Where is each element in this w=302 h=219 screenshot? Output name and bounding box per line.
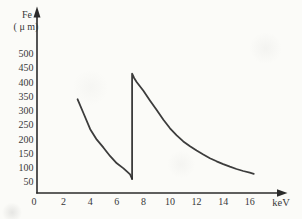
x-tick-label: 2	[61, 196, 66, 207]
y-axis-title-element: Fe	[22, 9, 33, 20]
y-tick-label: 350	[19, 91, 34, 102]
y-tick-label: 50	[24, 176, 34, 187]
data-curves	[78, 74, 254, 179]
y-tick-label: 500	[19, 48, 34, 59]
x-axis-title: keV	[272, 197, 290, 208]
x-tick-label: 16	[245, 196, 255, 207]
x-tick-label: 14	[218, 196, 228, 207]
curve-above-Fe-K-edge	[132, 74, 254, 179]
y-tick-label: 450	[19, 62, 34, 73]
y-tick-label: 400	[19, 77, 34, 88]
x-tick-label: 6	[114, 196, 119, 207]
x-axis-arrowhead	[277, 189, 288, 196]
curve-below-Fe-K-edge	[78, 99, 133, 179]
y-axis-title-unit: ( μ m)	[14, 21, 39, 33]
x-axis-tick-labels: 0246810121416	[32, 196, 255, 207]
y-tick-label: 300	[19, 105, 34, 116]
y-axis-tick-labels: 50100150200250300350400450500	[19, 48, 34, 187]
y-tick-label: 100	[19, 162, 34, 173]
y-tick-label: 150	[19, 148, 34, 159]
chart-canvas: 50100150200250300350400450500 0246810121…	[0, 0, 302, 219]
y-tick-label: 250	[19, 119, 34, 130]
x-tick-label: 8	[141, 196, 146, 207]
y-axis-arrowhead	[34, 7, 41, 18]
axes	[34, 7, 288, 197]
y-tick-label: 200	[19, 134, 34, 145]
x-tick-label: 4	[88, 196, 93, 207]
fe-penetration-depth-chart: 50100150200250300350400450500 0246810121…	[0, 0, 302, 219]
x-tick-label: 10	[165, 196, 175, 207]
x-tick-label: 0	[32, 196, 37, 207]
x-tick-label: 12	[192, 196, 202, 207]
